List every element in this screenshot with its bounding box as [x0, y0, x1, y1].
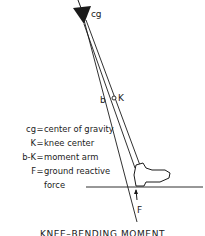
label-K: K	[118, 93, 124, 103]
legend-row-F: F = ground reactive	[8, 164, 114, 178]
legend-value: moment arm	[44, 150, 98, 164]
force-arrow-head	[134, 189, 138, 194]
legend-value: force	[44, 178, 65, 192]
legend-equals: =	[36, 122, 44, 136]
legend-key: b-K	[8, 150, 36, 164]
knee-bending-moment-diagram: cg b K F cg = center of gravity K = knee…	[0, 0, 205, 236]
legend: cg = center of gravity K = knee center b…	[8, 122, 114, 192]
legend-equals: =	[36, 164, 44, 178]
knee-center-marker	[112, 96, 116, 100]
legend-equals: =	[36, 150, 44, 164]
legend-equals: =	[36, 136, 44, 150]
legend-key	[8, 178, 36, 192]
center-of-gravity-marker	[73, 6, 91, 24]
diagram-drawing	[0, 0, 205, 236]
legend-key: F	[8, 164, 36, 178]
legend-row-K: K = knee center	[8, 136, 114, 150]
legend-row-cg: cg = center of gravity	[8, 122, 114, 136]
legend-value: ground reactive	[44, 164, 110, 178]
legend-key: K	[8, 136, 36, 150]
legend-row-F-cont: force	[8, 178, 114, 192]
legend-key: cg	[8, 122, 36, 136]
label-b: b	[100, 95, 106, 105]
label-cg: cg	[91, 9, 101, 19]
legend-value: knee center	[44, 136, 94, 150]
figure-caption: KNEE–BENDING MOMENT	[0, 229, 205, 236]
label-F: F	[137, 205, 142, 215]
legend-equals-spacer	[36, 178, 44, 192]
foot-shoe	[134, 163, 170, 186]
leg-axis-line	[78, 0, 81, 8]
legend-value: center of gravity	[44, 122, 114, 136]
legend-row-bK: b-K = moment arm	[8, 150, 114, 164]
